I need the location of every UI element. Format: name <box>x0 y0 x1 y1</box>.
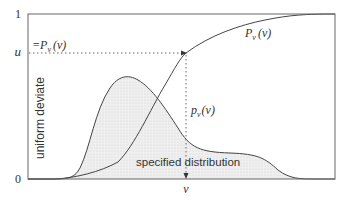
u-equals-label: =Pv(v) <box>32 38 66 54</box>
distribution-label: specified distribution <box>136 156 240 168</box>
y-axis-label: uniform deviate <box>33 77 47 159</box>
pdf-label: pv(v) <box>190 103 215 119</box>
cdf-label: Pv(v) <box>244 26 271 42</box>
transformation-method-diagram: 1 0 u =Pv(v) uniform deviate Pv(v) pv(v)… <box>0 0 350 203</box>
x-tick-v: v <box>183 182 189 196</box>
y-tick-0: 0 <box>15 172 21 186</box>
y-tick-1: 1 <box>15 7 21 21</box>
y-tick-u: u <box>15 44 22 59</box>
